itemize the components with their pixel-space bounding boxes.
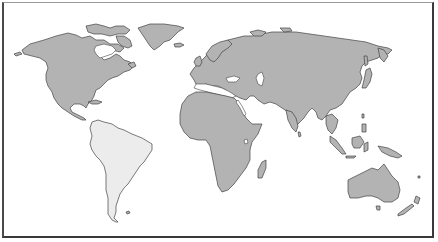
region-australia[interactable]	[348, 164, 400, 202]
island-sulawesi[interactable]	[364, 142, 368, 152]
island-severnaya[interactable]	[280, 28, 292, 32]
region-africa[interactable]	[180, 92, 262, 192]
island-japan[interactable]	[362, 68, 372, 88]
island-philippines[interactable]	[362, 124, 366, 132]
island-new-guinea[interactable]	[378, 146, 402, 158]
island-new-zealand-south[interactable]	[398, 204, 414, 216]
island-fiji[interactable]	[418, 176, 420, 178]
island-madagascar[interactable]	[258, 160, 266, 178]
island-new-zealand-north[interactable]	[414, 196, 420, 204]
region-indochina[interactable]	[326, 114, 338, 134]
island-iceland[interactable]	[174, 43, 184, 47]
island-borneo[interactable]	[352, 136, 364, 148]
island-tasmania[interactable]	[376, 206, 380, 210]
region-north-america[interactable]	[22, 33, 134, 120]
region-south-america[interactable]	[90, 120, 152, 222]
island-britain[interactable]	[194, 56, 202, 66]
island-taiwan[interactable]	[362, 114, 364, 118]
lake-victoria	[244, 139, 248, 144]
island-aleutian[interactable]	[14, 52, 22, 56]
world-map	[0, 0, 438, 242]
island-java[interactable]	[346, 156, 356, 158]
island-sumatra[interactable]	[330, 136, 346, 154]
island-sakhalin[interactable]	[364, 56, 368, 66]
island-falklands[interactable]	[126, 211, 130, 214]
region-arctic-islands[interactable]	[86, 24, 130, 36]
island-sri-lanka[interactable]	[298, 132, 301, 137]
